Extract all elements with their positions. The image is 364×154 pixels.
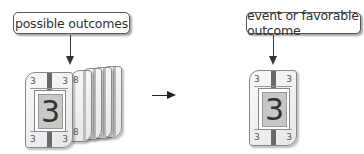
card-face: 3 [34,90,66,132]
card-stripe [113,67,116,137]
card-divider [254,86,292,87]
card-corner-number: 3 [286,74,292,84]
card-number: 8 [73,127,79,137]
card-corner-number: 3 [286,132,292,142]
card-corner-number: 3 [254,74,260,84]
event-text: event or favorable outcome [247,8,360,38]
card-stripe [103,68,106,138]
stacked-card: 8 8 [70,70,92,142]
left-front-card: 3 3 3 3 3 [25,72,73,148]
possible-outcomes-label: possible outcomes [13,12,130,34]
card-value: 3 [41,94,60,129]
card-corner-number: 3 [62,76,68,86]
left-down-arrow-icon [66,56,74,65]
card-divider [30,88,68,89]
left-connector-line [70,35,71,57]
card-corner-number: 3 [254,132,260,142]
right-arrow-icon [167,91,176,99]
possible-outcomes-text: possible outcomes [15,16,128,31]
card-stripe [83,71,86,141]
event-label: event or favorable outcome [246,12,361,34]
card-face-inner: 3 [262,92,287,127]
right-card: 3 3 3 3 3 [249,70,297,146]
card-stripe [93,69,96,139]
card-face: 3 [258,88,290,130]
right-connector-line [273,35,274,57]
card-corner-number: 3 [30,76,36,86]
card-corner-number: 3 [62,134,68,144]
card-value: 3 [265,92,284,127]
card-number: 8 [73,75,79,85]
card-corner-number: 3 [30,134,36,144]
transition-arrow-line [152,95,168,96]
right-down-arrow-icon [269,56,277,65]
card-face-inner: 3 [38,94,63,129]
